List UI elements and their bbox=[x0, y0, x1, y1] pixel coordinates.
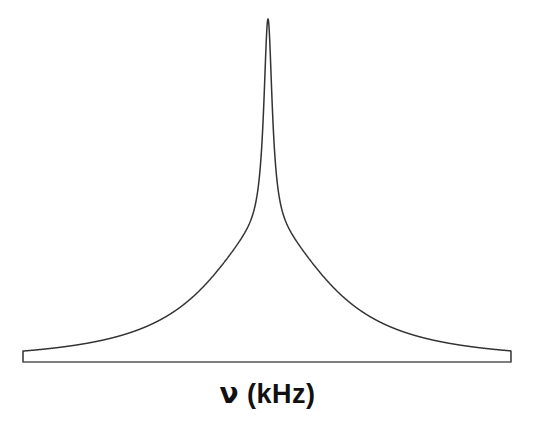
spectrum-plot-canvas bbox=[0, 0, 535, 435]
plot-background bbox=[0, 0, 535, 435]
nmr-spectrum-figure: ν (kHz) bbox=[0, 0, 535, 435]
nu-symbol: ν bbox=[219, 377, 239, 410]
x-axis-units: (kHz) bbox=[239, 379, 316, 409]
x-axis-label: ν (kHz) bbox=[0, 378, 535, 410]
